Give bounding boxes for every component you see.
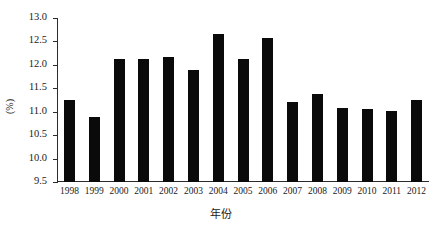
x-axis-tick-label: 2012: [400, 186, 434, 196]
bar: [362, 109, 373, 182]
y-axis-title: (%): [2, 92, 18, 122]
y-axis-tick: 13.0: [53, 18, 58, 19]
y-axis-tick: 12.5: [53, 41, 58, 42]
y-axis-tick: 11.0: [53, 112, 58, 113]
bar: [188, 70, 199, 182]
bar: [213, 34, 224, 182]
bar: [262, 38, 273, 182]
bar: [337, 108, 348, 182]
y-axis-tick-label: 11.0: [29, 105, 47, 116]
bar: [312, 94, 323, 182]
y-axis-tick-label: 11.5: [29, 81, 47, 92]
bar: [163, 57, 174, 182]
bar: [114, 59, 125, 182]
y-axis-tick-label: 13.0: [29, 11, 47, 22]
y-axis-tick: 12.0: [53, 65, 58, 66]
bar: [287, 102, 298, 182]
y-axis-line: [57, 18, 58, 182]
bar: [138, 59, 149, 182]
bar: [386, 111, 397, 182]
y-axis-tick-label: 9.5: [34, 175, 47, 186]
y-axis-tick-label: 12.0: [29, 58, 47, 69]
bar: [89, 117, 100, 182]
bar: [238, 59, 249, 182]
y-axis-tick-label: 12.5: [29, 34, 47, 45]
bar: [64, 100, 75, 182]
y-axis-tick: 9.5: [53, 182, 58, 183]
y-axis-tick-label: 10.5: [29, 128, 47, 139]
y-axis-tick: 10.5: [53, 135, 58, 136]
y-axis-tick: 11.5: [53, 88, 58, 89]
bar-chart: (%) 13.012.512.011.511.010.510.09.5 1998…: [0, 0, 441, 231]
bar: [411, 100, 422, 182]
y-axis-tick-label: 10.0: [29, 152, 47, 163]
y-axis-tick: 10.0: [53, 159, 58, 160]
plot-area: 13.012.512.011.511.010.510.09.5 19981999…: [57, 18, 429, 182]
x-axis-title: 年份: [0, 205, 441, 221]
